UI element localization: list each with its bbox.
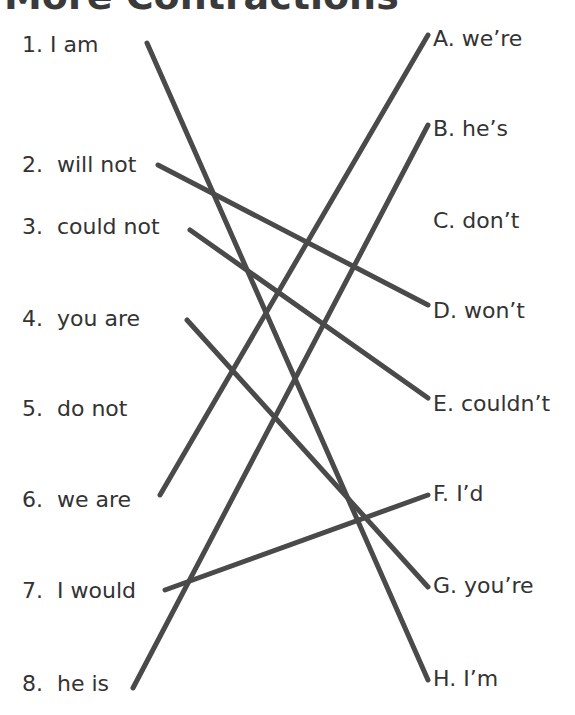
match-lines [0,0,575,715]
left-item-4: 4. you are [22,308,140,330]
right-item-D: D. won’t [433,300,525,322]
left-item-1: 1. I am [22,34,98,56]
right-item-B: B. he’s [433,118,508,140]
right-item-H: H. I’m [433,668,498,690]
left-item-3: 3. could not [22,216,160,238]
line-3-E [190,230,428,398]
left-item-6: 6. we are [22,489,131,511]
right-item-E: E. couldn’t [433,393,550,415]
left-item-7: 7. I would [22,580,136,602]
right-item-G: G. you’re [433,575,534,597]
left-item-2: 2. will not [22,154,136,176]
left-item-8: 8. he is [22,673,109,695]
line-6-A [160,35,428,495]
line-8-B [133,125,428,688]
right-item-A: A. we’re [433,28,522,50]
left-item-5: 5. do not [22,398,127,420]
right-item-C: C. don’t [433,210,519,232]
right-item-F: F. I’d [433,483,484,505]
